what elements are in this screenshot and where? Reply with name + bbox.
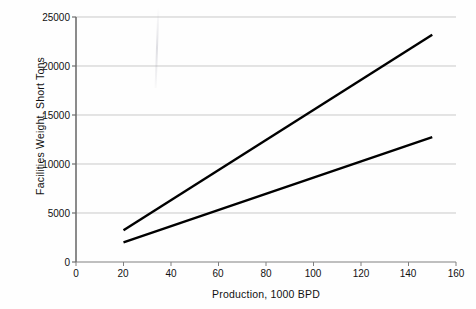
chart-container: Facilities Weight, Short Tons 0 5000 100… <box>0 0 476 309</box>
series-line-upper-line <box>124 35 433 231</box>
gridlines <box>76 17 456 213</box>
plot-area <box>0 0 476 309</box>
series-line-lower-line <box>124 137 433 242</box>
